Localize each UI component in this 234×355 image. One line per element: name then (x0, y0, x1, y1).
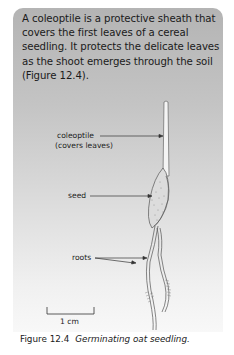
roots-label: roots (72, 253, 91, 263)
scale-bar (47, 307, 94, 314)
caption-number: Figure 12.4 (20, 334, 69, 344)
coleoptile-label: coleoptile (57, 131, 94, 141)
seed-label: seed (68, 191, 86, 201)
scale-label: 1 cm (60, 317, 79, 327)
coleoptile-note-label: (covers leaves) (55, 141, 113, 151)
oat-seedling-illustration (0, 0, 234, 355)
figure-caption: Figure 12.4Germinating oat seedling. (20, 334, 190, 344)
caption-title: Germinating oat seedling. (75, 334, 190, 344)
